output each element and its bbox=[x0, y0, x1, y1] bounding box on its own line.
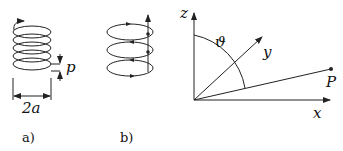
point-p bbox=[329, 67, 333, 71]
x-label: x bbox=[313, 104, 322, 122]
z-label: z bbox=[179, 4, 188, 22]
p-label: P bbox=[325, 73, 337, 91]
pitch-label: p bbox=[66, 58, 76, 76]
caption-a: a) bbox=[22, 130, 35, 145]
panel-b-direction-markers bbox=[126, 22, 150, 78]
figure-canvas: p 2a a) b) z y x ϑ P bbox=[0, 0, 343, 151]
theta-label: ϑ bbox=[215, 33, 226, 51]
caption-b: b) bbox=[120, 130, 133, 145]
y-label: y bbox=[262, 43, 272, 61]
diameter-label: 2a bbox=[21, 99, 41, 117]
op-line bbox=[194, 69, 331, 100]
y-axis bbox=[194, 37, 262, 100]
panel-a-helix bbox=[13, 21, 60, 100]
